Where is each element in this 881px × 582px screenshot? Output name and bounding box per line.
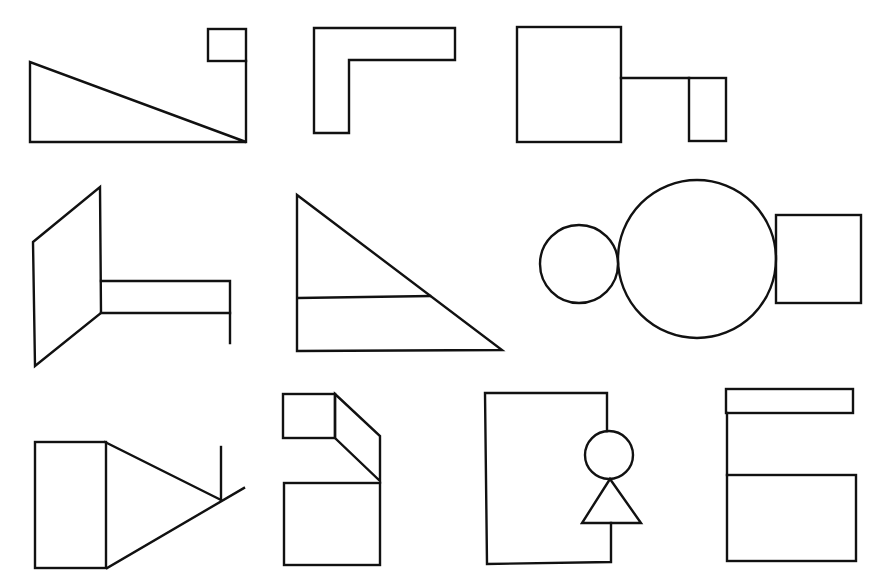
figure-6-circles-and-square — [540, 180, 861, 338]
figure-1-triangle-with-square — [30, 29, 246, 142]
figure-8-stacked-blocks — [283, 394, 380, 565]
figure-7-rectangle-with-triangle — [35, 442, 244, 568]
figure-3-square-and-small-rect — [517, 27, 726, 142]
figure-canvas — [0, 0, 881, 582]
figure-10-bar-and-rectangle — [726, 389, 856, 561]
figure-9-frame-with-circle-triangle — [485, 393, 641, 564]
figure-5-triangle-with-divider — [297, 195, 502, 351]
figure-4-parallelogram-with-bar — [33, 187, 230, 366]
figure-2-l-shape — [314, 28, 455, 133]
